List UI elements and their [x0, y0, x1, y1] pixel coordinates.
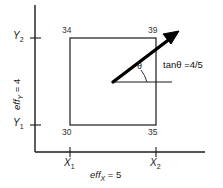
- y-axis-title-sub: Y: [17, 95, 24, 100]
- y1-tick-label-text: Y: [13, 117, 20, 128]
- theta-angle-arc: [141, 70, 147, 82]
- x1-tick-label-sub: 1: [71, 163, 75, 170]
- corner-value-bottom-left: 30: [62, 128, 71, 137]
- corner-value-top-right: 39: [148, 26, 157, 35]
- x-axis-title-prefix: eff: [90, 169, 101, 180]
- y-axis-title-prefix: eff: [11, 99, 22, 110]
- x1-tick-label-text: X: [64, 157, 71, 168]
- theta-label: θ: [137, 62, 142, 71]
- gradient-vector-diagram: 34 39 30 35 Y2 Y1 X1 X2 effY = 4 effX = …: [0, 0, 223, 188]
- y-axis-title-value: = 4: [11, 79, 22, 95]
- tan-theta-annotation: tanθ =4/5: [163, 60, 203, 70]
- x2-tick-label-sub: 2: [157, 163, 161, 170]
- x2-tick-label-text: X: [150, 157, 157, 168]
- x2-tick-label: X2: [150, 158, 161, 170]
- y2-tick-label: Y2: [13, 31, 24, 43]
- y2-tick-label-sub: 2: [20, 36, 24, 43]
- diagram-canvas: [0, 0, 223, 188]
- y1-tick-label-sub: 1: [20, 123, 24, 130]
- gradient-vector-arrow: [113, 31, 179, 82]
- corner-value-top-left: 34: [62, 26, 71, 35]
- x1-tick-label: X1: [64, 158, 75, 170]
- y-axis-title: effY = 4: [12, 79, 24, 110]
- corner-value-bottom-right: 35: [148, 128, 157, 137]
- y1-tick-label: Y1: [13, 118, 24, 130]
- x-axis-title-value: = 5: [105, 169, 121, 180]
- y2-tick-label-text: Y: [13, 30, 20, 41]
- x-axis-title: effX = 5: [90, 170, 121, 182]
